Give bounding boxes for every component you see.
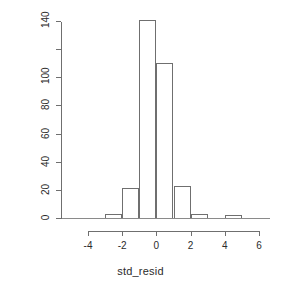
y-axis-tick-label-text: 40 bbox=[40, 154, 51, 169]
y-axis-tick-label: 40 bbox=[38, 155, 53, 169]
histogram-baseline bbox=[62, 218, 270, 219]
y-axis-tick bbox=[56, 190, 61, 191]
y-axis-tick-label-text: 140 bbox=[40, 13, 51, 28]
x-axis-tick-label: 6 bbox=[249, 240, 269, 251]
histogram-bar bbox=[156, 63, 173, 218]
x-axis-title: std_resid bbox=[0, 265, 281, 277]
x-axis-tick bbox=[156, 231, 157, 236]
y-axis-tick-label-text: 20 bbox=[40, 182, 51, 197]
x-axis-tick bbox=[122, 231, 123, 236]
y-axis-tick-label: 100 bbox=[38, 70, 53, 84]
y-axis-tick-label-text: 80 bbox=[40, 97, 51, 112]
y-axis-tick-label-text: 100 bbox=[40, 69, 51, 84]
y-axis-tick-label-text: 0 bbox=[40, 210, 51, 225]
plot-panel bbox=[62, 14, 272, 219]
x-axis-tick bbox=[259, 231, 260, 236]
x-axis-tick-label: 2 bbox=[181, 240, 201, 251]
y-axis-tick bbox=[56, 162, 61, 163]
y-axis-tick-label: 60 bbox=[38, 127, 53, 141]
x-axis-tick-label: -4 bbox=[78, 240, 98, 251]
histogram-bar bbox=[139, 20, 156, 218]
x-axis-tick-label: -2 bbox=[112, 240, 132, 251]
y-axis-tick bbox=[56, 218, 61, 219]
x-axis-tick bbox=[191, 231, 192, 236]
x-axis-line bbox=[88, 231, 259, 232]
y-axis-tick bbox=[56, 105, 61, 106]
histogram-bar bbox=[122, 188, 139, 218]
histogram-bar bbox=[174, 186, 191, 218]
x-axis-tick-label: 0 bbox=[146, 240, 166, 251]
y-axis-tick bbox=[56, 134, 61, 135]
x-axis-tick bbox=[88, 231, 89, 236]
y-axis-tick bbox=[56, 21, 61, 22]
y-axis-tick bbox=[56, 49, 61, 50]
y-axis-tick-label: 140 bbox=[38, 14, 53, 28]
y-axis-tick-label: 0 bbox=[38, 211, 53, 225]
y-axis-tick-label: 20 bbox=[38, 183, 53, 197]
x-axis-tick-label: 4 bbox=[215, 240, 235, 251]
y-axis-tick-label: 80 bbox=[38, 98, 53, 112]
histogram-plot: Frequency 020406080100140 -4-20246 std_r… bbox=[0, 0, 281, 291]
x-axis-tick bbox=[225, 231, 226, 236]
y-axis-tick-label-text: 60 bbox=[40, 126, 51, 141]
y-axis-tick bbox=[56, 77, 61, 78]
